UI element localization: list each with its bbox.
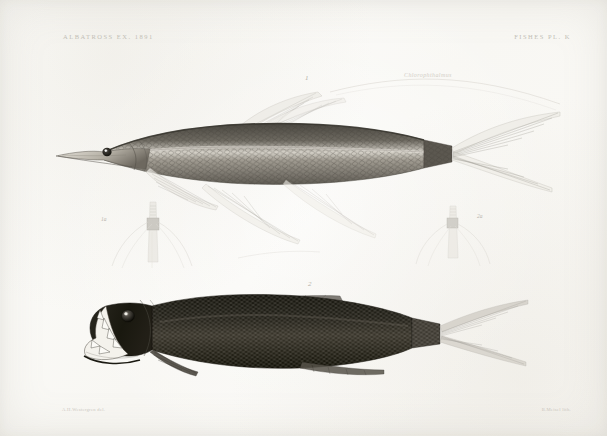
lithograph-plate: ALBATROSS EX. 1891 FISHES PL. K Chloroph… [0, 0, 607, 436]
detail-1a-number: 1a [101, 216, 107, 222]
script-annotation: Chlorophthalmus [404, 72, 452, 78]
plate-artwork [0, 0, 607, 436]
figure-2-lower-fish [84, 251, 528, 376]
detail-2a-number: 2a [477, 213, 483, 219]
header-right: FISHES PL. K [514, 33, 571, 40]
engraver-credit: B.Meisel lith. [542, 407, 571, 412]
figure-1-upper-fish [56, 79, 560, 244]
detail-1a-artwork [112, 202, 192, 268]
header-left: ALBATROSS EX. 1891 [63, 33, 154, 40]
figure-2-number: 2 [308, 280, 312, 288]
figure-1-number: 1 [305, 74, 309, 82]
artist-credit: A.H.Westergren del. [62, 407, 105, 412]
